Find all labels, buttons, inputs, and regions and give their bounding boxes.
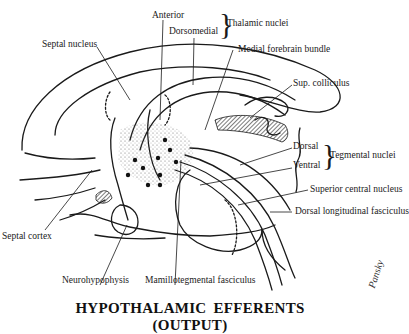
pons-outline xyxy=(176,170,262,251)
label-dorsomedial: Dorsomedial xyxy=(169,27,218,37)
label-septal-nucleus: Septal nucleus xyxy=(42,40,97,50)
tegmental-hatch xyxy=(215,115,288,142)
figure-title: HYPOTHALAMIC EFFERENTS (OUTPUT) xyxy=(40,300,340,334)
label-sup-colliculus: Sup. colliculus xyxy=(293,79,349,89)
septal-hatch xyxy=(96,191,112,203)
label-mamillotegmental-fasciculus: Mamillotegmental fasciculus xyxy=(145,276,256,286)
label-medial-forebrain-bundle: Medial forebrain bundle xyxy=(238,45,330,55)
label-anterior: Anterior xyxy=(152,11,184,21)
label-ventral: Ventral xyxy=(293,161,320,171)
label-superior-central-nucleus: Superior central nucleus xyxy=(310,185,402,195)
label-thalamic-nuclei: Thalamic nuclei xyxy=(227,19,288,29)
label-septal-cortex: Septal cortex xyxy=(2,232,52,242)
label-dorsal-longitudinal-fasciculus: Dorsal longitudinal fasciculus xyxy=(295,207,409,217)
label-tegmental-nuclei: Tegmental nuclei xyxy=(330,151,396,161)
label-neurohypophysis: Neurohypophysis xyxy=(62,276,129,286)
label-dorsal: Dorsal xyxy=(293,142,318,152)
